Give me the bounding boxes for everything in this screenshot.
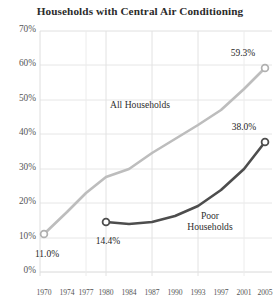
vertical-gridlines: [40, 31, 244, 276]
y-tick-label-10: 10%: [0, 231, 36, 241]
all-households-end-value: 59.3%: [219, 48, 267, 58]
marker-poor-households-end: [262, 139, 269, 146]
marker-all-households-start: [41, 231, 48, 238]
y-tick-label-20: 20%: [0, 196, 36, 206]
poor-households-series-label: Poor Households: [173, 211, 247, 232]
poor-households-series-label-line2: Households: [173, 222, 247, 233]
y-tick-label-50: 50%: [0, 93, 36, 103]
marker-poor-households-start: [103, 219, 110, 226]
chart-container: Households with Central Air Conditioning: [0, 0, 280, 308]
x-tick-label-2005: 2005: [249, 288, 280, 297]
all-households-series-label: All Households: [90, 100, 190, 111]
poor-households-end-value: 38.0%: [220, 122, 268, 132]
y-tick-label-0: 0%: [0, 265, 36, 275]
all-households-start-value: 11.0%: [25, 249, 69, 259]
series-line-all-households: [44, 68, 265, 234]
chart-plot-area: [0, 0, 280, 308]
y-tick-label-40: 40%: [0, 127, 36, 137]
y-tick-label-60: 60%: [0, 58, 36, 68]
poor-households-start-value: 14.4%: [86, 236, 130, 246]
y-tick-label-70: 70%: [0, 24, 36, 34]
marker-all-households-end: [262, 65, 269, 72]
y-tick-label-30: 30%: [0, 162, 36, 172]
